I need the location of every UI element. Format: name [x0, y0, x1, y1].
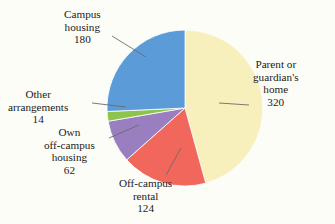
label-value: 14	[8, 113, 68, 126]
label-value: 124	[119, 202, 172, 215]
label-line-2: housing	[65, 21, 100, 33]
label-line-3: home	[263, 83, 288, 95]
slice-label-parent-home: Parent or guardian's home 320	[253, 58, 299, 108]
label-line-2: off-campus	[44, 139, 95, 151]
label-line-1: Off-campus	[119, 177, 172, 189]
label-value: 62	[44, 164, 95, 177]
pie-slices	[107, 30, 263, 186]
label-line-1: Own	[58, 126, 80, 138]
slice-label-other-arrangements: Other arrangements 14	[8, 88, 68, 126]
slice-label-offcampus-rental: Off-campus rental 124	[119, 177, 172, 215]
label-line-2: arrangements	[8, 101, 68, 113]
label-line-1: Parent or	[255, 58, 296, 70]
label-value: 320	[253, 96, 299, 109]
label-line-1: Other	[25, 88, 50, 100]
label-value: 180	[64, 33, 101, 46]
slice-label-campus-housing: Campus housing 180	[64, 8, 101, 46]
label-line-2: rental	[133, 190, 158, 202]
label-line-3: housing	[52, 151, 87, 163]
slice-label-own-offcampus-housing: Own off-campus housing 62	[44, 126, 95, 176]
label-line-2: guardian's	[253, 71, 299, 83]
pie-slice-campus-housing[interactable]	[107, 30, 185, 112]
pie-chart-figure: Campus housing 180 Parent or guardian's …	[0, 0, 335, 224]
label-line-1: Campus	[64, 8, 101, 20]
